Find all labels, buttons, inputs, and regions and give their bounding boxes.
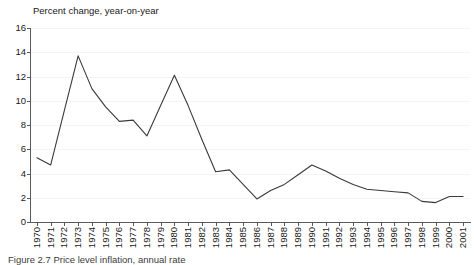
x-tick-mark — [229, 223, 230, 226]
y-tick-mark — [27, 28, 30, 29]
x-tick-mark — [78, 223, 79, 226]
x-tick-label: 1981 — [183, 227, 193, 248]
x-tick-mark — [161, 223, 162, 226]
x-tick-label: 1980 — [169, 227, 179, 248]
x-tick-label: 1996 — [389, 227, 399, 248]
plot-area — [30, 28, 470, 222]
x-tick-label: 1972 — [59, 227, 69, 248]
y-tick-label: 12 — [15, 72, 26, 82]
x-tick-mark — [271, 223, 272, 226]
x-tick-label: 1979 — [156, 227, 166, 248]
x-tick-label: 1975 — [101, 227, 111, 248]
x-tick-mark — [449, 223, 450, 226]
x-tick-label: 1970 — [32, 227, 42, 248]
y-tick-label: 10 — [15, 96, 26, 106]
x-tick-mark — [463, 223, 464, 226]
y-tick-mark — [27, 174, 30, 175]
y-tick-mark — [27, 198, 30, 199]
x-tick-label: 1998 — [417, 227, 427, 248]
x-tick-mark — [37, 223, 38, 226]
y-tick-mark — [27, 77, 30, 78]
x-tick-mark — [51, 223, 52, 226]
x-tick-mark — [367, 223, 368, 226]
y-tick-label: 2 — [21, 193, 26, 203]
x-tick-label: 1982 — [197, 227, 207, 248]
x-tick-label: 2000 — [444, 227, 454, 248]
x-tick-mark — [64, 223, 65, 226]
x-tick-label: 1986 — [252, 227, 262, 248]
y-tick-mark — [27, 149, 30, 150]
x-tick-label: 1977 — [128, 227, 138, 248]
y-axis-line — [30, 28, 31, 223]
x-tick-label: 1973 — [73, 227, 83, 248]
y-tick-label: 14 — [15, 48, 26, 58]
x-tick-mark — [394, 223, 395, 226]
x-tick-label: 1992 — [334, 227, 344, 248]
x-tick-mark — [312, 223, 313, 226]
x-tick-label: 1995 — [376, 227, 386, 248]
x-tick-label: 1989 — [293, 227, 303, 248]
x-tick-mark — [339, 223, 340, 226]
x-tick-label: 1984 — [224, 227, 234, 248]
y-tick-label: 16 — [15, 23, 26, 33]
x-tick-mark — [202, 223, 203, 226]
y-tick-label: 4 — [21, 169, 26, 179]
y-tick-label: 8 — [21, 120, 26, 130]
x-tick-label: 1987 — [266, 227, 276, 248]
x-tick-mark — [133, 223, 134, 226]
y-tick-mark — [27, 125, 30, 126]
x-tick-label: 1971 — [46, 227, 56, 248]
x-tick-mark — [119, 223, 120, 226]
x-tick-label: 1997 — [403, 227, 413, 248]
chart-title: Percent change, year-on-year — [33, 5, 159, 16]
y-axis-tick-labels: 0246810121416 — [0, 28, 26, 222]
x-tick-mark — [92, 223, 93, 226]
x-tick-mark — [298, 223, 299, 226]
x-tick-mark — [147, 223, 148, 226]
series-polyline — [37, 56, 463, 203]
x-tick-label: 1993 — [348, 227, 358, 248]
x-tick-label: 1974 — [87, 227, 97, 248]
x-tick-label: 1991 — [321, 227, 331, 248]
x-tick-label: 1994 — [362, 227, 372, 248]
x-tick-mark — [326, 223, 327, 226]
x-tick-label: 2001 — [458, 227, 468, 248]
series-line-chart — [30, 28, 470, 222]
y-tick-mark — [27, 101, 30, 102]
x-tick-label: 1985 — [238, 227, 248, 248]
x-tick-mark — [174, 223, 175, 226]
x-tick-mark — [188, 223, 189, 226]
x-tick-label: 1988 — [279, 227, 289, 248]
x-tick-mark — [284, 223, 285, 226]
x-tick-mark — [381, 223, 382, 226]
y-tick-label: 6 — [21, 145, 26, 155]
y-tick-mark — [27, 52, 30, 53]
x-tick-mark — [436, 223, 437, 226]
x-tick-mark — [422, 223, 423, 226]
x-tick-label: 1983 — [211, 227, 221, 248]
x-tick-mark — [216, 223, 217, 226]
x-tick-label: 1978 — [142, 227, 152, 248]
x-tick-mark — [353, 223, 354, 226]
figure-caption: Figure 2.7 Price level inflation, annual… — [8, 254, 474, 265]
x-tick-mark — [408, 223, 409, 226]
y-tick-label: 0 — [21, 217, 26, 227]
x-tick-mark — [106, 223, 107, 226]
x-tick-label: 1999 — [431, 227, 441, 248]
x-tick-mark — [257, 223, 258, 226]
x-tick-label: 1990 — [307, 227, 317, 248]
x-tick-label: 1976 — [114, 227, 124, 248]
x-tick-mark — [243, 223, 244, 226]
